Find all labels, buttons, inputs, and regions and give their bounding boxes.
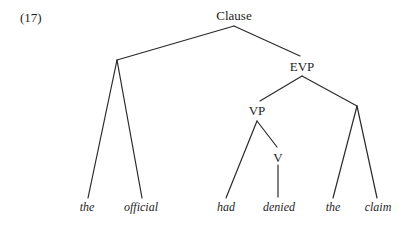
leaf-the-2: the — [326, 201, 341, 213]
edge-vp-v — [257, 121, 277, 147]
edge-clause-np — [117, 26, 234, 60]
edge-np-the — [88, 60, 117, 198]
leaf-claim: claim — [365, 201, 392, 213]
node-evp: EVP — [290, 60, 315, 73]
edge-evp-vp — [260, 76, 302, 101]
node-vp: VP — [249, 104, 266, 117]
leaf-denied: denied — [263, 201, 295, 213]
leaf-the: the — [80, 201, 95, 213]
edge-clause-evp — [234, 26, 300, 56]
syntax-tree-figure: (17) Clause EVP VP V the official had de… — [0, 0, 412, 229]
edge-np-claim — [357, 106, 377, 198]
tree-edges — [0, 0, 412, 229]
edge-vp-had — [226, 121, 257, 198]
leaf-had: had — [217, 201, 235, 213]
edge-evp-np — [302, 76, 357, 106]
edge-np-official — [117, 60, 142, 198]
leaf-official: official — [124, 201, 158, 213]
edge-np-the-2 — [333, 106, 357, 198]
node-clause: Clause — [216, 9, 251, 22]
node-v: V — [273, 151, 282, 164]
